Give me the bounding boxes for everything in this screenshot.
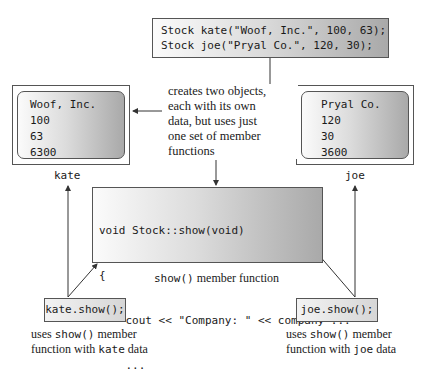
- joe-share-price: 30: [321, 129, 408, 145]
- description-line: each with its own: [168, 99, 298, 114]
- joe-object-data: Pryal Co. 120 30 3600: [301, 91, 409, 159]
- description-line: one set of member: [168, 129, 298, 144]
- note-text: uses: [286, 327, 310, 341]
- code-line: ...: [99, 358, 322, 373]
- declaration-line-kate: Stock kate("Woof, Inc.", 100, 63);: [161, 23, 388, 38]
- kate-shares: 100: [30, 113, 124, 129]
- declaration-code-box: Stock kate("Woof, Inc.", 100, 63); Stock…: [152, 18, 389, 58]
- joe-show-call-box: joe.show();: [296, 298, 378, 322]
- kate-share-price: 63: [30, 129, 124, 145]
- declaration-line-joe: Stock joe("Pryal Co.", 120, 30);: [161, 38, 388, 53]
- note-code: joe: [353, 343, 373, 356]
- joe-total: 3600: [321, 145, 408, 161]
- caption-text: member function: [194, 271, 279, 285]
- kate-company: Woof, Inc.: [30, 97, 124, 113]
- joe-shares: 120: [321, 113, 408, 129]
- description-line: creates two objects,: [168, 84, 298, 99]
- joe-object-box: Pryal Co. 120 30 3600: [296, 85, 414, 165]
- joe-object-label: joe: [345, 169, 365, 182]
- note-text: data: [125, 342, 148, 356]
- joe-call-note: uses show() member function with joe dat…: [286, 327, 396, 357]
- description-line: data, but uses just: [168, 114, 298, 129]
- note-code: show(): [310, 328, 350, 341]
- note-text: data: [373, 342, 396, 356]
- code-line: void Stock::show(void): [99, 223, 322, 238]
- kate-total: 6300: [30, 145, 124, 161]
- joe-company: Pryal Co.: [321, 97, 408, 113]
- note-code: show(): [55, 328, 95, 341]
- note-text: member: [349, 327, 391, 341]
- caption-code: show(): [154, 272, 194, 285]
- kate-object-box: Woof, Inc. 100 63 6300: [12, 85, 130, 165]
- kate-object-data: Woof, Inc. 100 63 6300: [17, 91, 125, 159]
- code-line: cout << "Company: " << company ...: [99, 313, 322, 328]
- description-line: functions: [168, 144, 298, 159]
- member-function-code-box: void Stock::show(void) { cout << "Compan…: [92, 187, 323, 263]
- kate-show-call-box: kate.show();: [44, 298, 126, 322]
- note-text: function with: [286, 342, 353, 356]
- note-code: kate: [98, 343, 125, 356]
- note-text: member: [94, 327, 136, 341]
- kate-object-label: kate: [54, 169, 81, 182]
- kate-call-note: uses show() member function with kate da…: [31, 327, 148, 357]
- member-function-caption: show() member function: [154, 271, 279, 286]
- note-text: uses: [31, 327, 55, 341]
- description-text: creates two objects, each with its own d…: [168, 84, 298, 159]
- note-text: function with: [31, 342, 98, 356]
